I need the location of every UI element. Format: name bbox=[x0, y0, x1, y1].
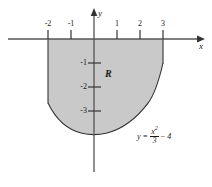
region-label-R: R bbox=[105, 69, 112, 79]
equation-trailing-term: − 4 bbox=[160, 133, 171, 141]
equation-lhs: y = bbox=[137, 133, 148, 141]
y-axis-label: y bbox=[98, 9, 102, 18]
equation-fraction: x2 3 bbox=[150, 128, 159, 145]
y-tick-label--3: -3 bbox=[76, 107, 87, 115]
x-axis-label: x bbox=[199, 42, 203, 51]
x-tick-label-1: 1 bbox=[115, 20, 119, 28]
y-axis-arrow-icon bbox=[91, 8, 98, 16]
equation-numerator: x2 bbox=[150, 128, 159, 136]
equation-exponent: 2 bbox=[155, 125, 158, 131]
equation-denominator: 3 bbox=[151, 137, 157, 145]
graph-figure: x y -2 -1 1 2 3 -1 -2 -3 R y = x2 3 − 4 bbox=[0, 0, 212, 187]
x-tick-label--2: -2 bbox=[45, 20, 52, 28]
x-tick-label-3: 3 bbox=[161, 20, 165, 28]
y-tick-label--1: -1 bbox=[76, 59, 87, 67]
curve-equation-label: y = x2 3 − 4 bbox=[137, 128, 171, 145]
x-tick-label-2: 2 bbox=[138, 20, 142, 28]
coordinate-plot bbox=[0, 0, 212, 187]
x-tick-label--1: -1 bbox=[68, 20, 75, 28]
y-tick-label--2: -2 bbox=[76, 83, 87, 91]
shaded-region-R bbox=[48, 39, 163, 135]
